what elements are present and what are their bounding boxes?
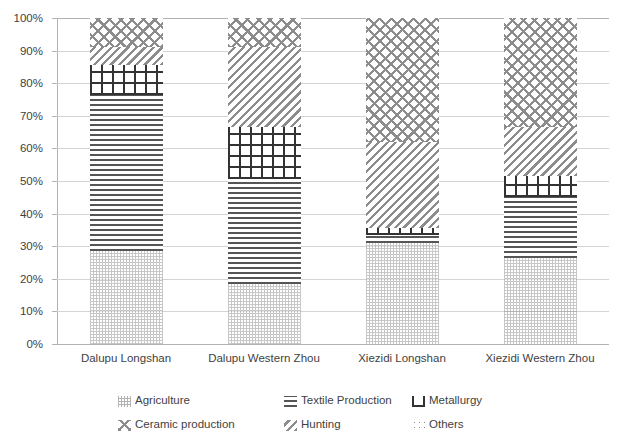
y-tick-label: 50% [0, 175, 43, 187]
x-axis-labels: Dalupu LongshanDalupu Western ZhouXiezid… [57, 352, 609, 374]
bar-segment-ceramic-production[interactable] [504, 18, 577, 127]
bar-segment-hunting[interactable] [366, 142, 439, 228]
y-tick-label: 60% [0, 142, 43, 154]
legend-item-ceramic-production[interactable]: Ceramic production [118, 419, 284, 431]
y-tick-mark [52, 116, 57, 117]
y-tick-mark [52, 246, 57, 247]
stacked-bar-chart: 0%10%20%30%40%50%60%70%80%90%100% Dalupu… [0, 0, 617, 444]
bar-segment-hunting[interactable] [90, 47, 163, 65]
bar-segment-agriculture[interactable] [90, 251, 163, 344]
y-tick-mark [52, 83, 57, 84]
y-tick-label: 0% [0, 338, 43, 350]
y-tick-mark [52, 214, 57, 215]
legend-label: Others [429, 419, 464, 431]
legend-item-textile-production[interactable]: Textile Production [284, 395, 412, 407]
bar-segment-ceramic-production[interactable] [90, 18, 163, 47]
bar-segment-ceramic-production[interactable] [228, 18, 301, 47]
bar-segment-metallurgy[interactable] [504, 176, 577, 197]
bar-segment-agriculture[interactable] [228, 284, 301, 344]
y-tick-label: 90% [0, 45, 43, 57]
y-tick-label: 20% [0, 273, 43, 285]
gridline-0% [57, 344, 609, 345]
y-tick-mark [52, 148, 57, 149]
x-tick-label: Dalupu Western Zhou [208, 352, 320, 364]
legend-swatch-icon [118, 396, 131, 407]
bar-segment-agriculture[interactable] [366, 243, 439, 344]
y-tick-mark [52, 344, 57, 345]
bar-stack [228, 18, 301, 344]
legend-label: Agriculture [135, 395, 190, 407]
legend-item-hunting[interactable]: Hunting [284, 419, 412, 431]
legend-label: Metallurgy [429, 395, 482, 407]
legend-label: Hunting [301, 419, 341, 431]
chart-legend: AgricultureTextile ProductionMetallurgyC… [118, 389, 518, 437]
bar-stack [366, 18, 439, 344]
bar-segment-metallurgy[interactable] [90, 65, 163, 94]
bar-segment-metallurgy[interactable] [366, 228, 439, 235]
y-tick-mark [52, 311, 57, 312]
y-tick-mark [52, 181, 57, 182]
bar-segment-textile-production[interactable] [504, 197, 577, 257]
bar-segment-metallurgy[interactable] [228, 127, 301, 179]
plot-area: 0%10%20%30%40%50%60%70%80%90%100% [57, 18, 609, 344]
legend-label: Textile Production [301, 395, 392, 407]
x-tick-label: Xiezidi Western Zhou [485, 352, 594, 364]
legend-swatch-icon [412, 420, 425, 431]
bar-group[interactable] [228, 18, 301, 344]
y-tick-mark [52, 279, 57, 280]
legend-item-agriculture[interactable]: Agriculture [118, 395, 284, 407]
bar-segment-agriculture[interactable] [504, 258, 577, 344]
bar-stack [90, 18, 163, 344]
legend-item-metallurgy[interactable]: Metallurgy [412, 395, 518, 407]
bar-stack [504, 18, 577, 344]
y-tick-mark [52, 51, 57, 52]
legend-label: Ceramic production [135, 419, 235, 431]
y-tick-mark [52, 18, 57, 19]
legend-swatch-icon [284, 420, 297, 431]
y-tick-label: 70% [0, 110, 43, 122]
bar-segment-hunting[interactable] [504, 127, 577, 176]
y-tick-label: 10% [0, 305, 43, 317]
bar-group[interactable] [366, 18, 439, 344]
legend-swatch-icon [118, 420, 131, 431]
x-tick-label: Xiezidi Longshan [358, 352, 446, 364]
y-tick-label: 100% [0, 12, 43, 24]
bar-segment-ceramic-production[interactable] [366, 18, 439, 142]
bar-segment-hunting[interactable] [228, 47, 301, 127]
legend-swatch-icon [412, 396, 425, 407]
bar-group[interactable] [504, 18, 577, 344]
bar-group[interactable] [90, 18, 163, 344]
bar-segment-textile-production[interactable] [90, 95, 163, 251]
y-tick-label: 80% [0, 77, 43, 89]
legend-item-others[interactable]: Others [412, 419, 518, 431]
y-tick-label: 30% [0, 240, 43, 252]
bar-segment-textile-production[interactable] [228, 179, 301, 283]
legend-swatch-icon [284, 396, 297, 407]
bar-segment-textile-production[interactable] [366, 235, 439, 243]
x-tick-label: Dalupu Longshan [81, 352, 171, 364]
y-tick-label: 40% [0, 208, 43, 220]
